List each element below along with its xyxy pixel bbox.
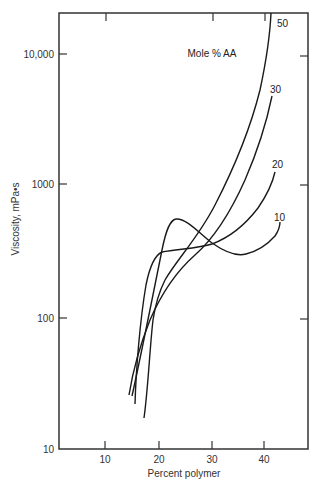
y-tick-label: 100 (37, 313, 54, 324)
x-tick-label: 40 (258, 454, 270, 465)
series-label-50: 50 (277, 18, 289, 29)
y-tick-label: 1000 (32, 179, 55, 190)
y-axis-label: Viscosity, mPa•s (10, 182, 21, 255)
curve-20 (135, 172, 275, 404)
plot-frame (59, 13, 308, 449)
y-tick-label: 10,000 (23, 49, 54, 60)
y-tick-label: 10 (43, 444, 55, 455)
legend-title: Mole % AA (188, 48, 237, 59)
series-label-20: 20 (272, 159, 284, 170)
viscosity-chart: 10,000 1000 100 10 10 20 30 40 Percent p… (0, 0, 318, 489)
x-tick-label: 30 (206, 454, 218, 465)
series-label-10: 10 (274, 212, 286, 223)
x-axis-label: Percent polymer (148, 468, 221, 479)
series-label-30: 30 (270, 84, 282, 95)
x-tick-label: 20 (153, 454, 165, 465)
x-tick-label: 10 (99, 454, 111, 465)
